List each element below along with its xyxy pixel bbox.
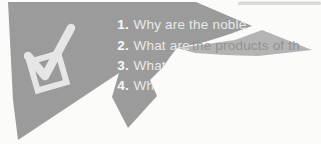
question-item-4: 4. Wha (117, 78, 162, 93)
question-1-text: Why are the noble g (134, 17, 259, 32)
question-4-text: Wha (134, 78, 163, 93)
question-2-number: 2. (117, 38, 129, 53)
scan-artifact-bar (238, 2, 321, 6)
question-2-torn-text: the products of th (192, 38, 300, 53)
question-3-number: 3. (117, 58, 129, 73)
question-4-number: 4. (117, 78, 129, 93)
question-2-text: What are (134, 38, 190, 53)
question-item-3: 3. What i (117, 58, 173, 73)
question-3-text: What i (134, 58, 173, 73)
scanned-checklist-graphic: 1. Why are the noble g 2. What are 3. Wh… (0, 0, 321, 144)
torn-note-svg: 1. Why are the noble g 2. What are 3. Wh… (0, 0, 321, 144)
question-1-number: 1. (117, 17, 129, 32)
question-item-1: 1. Why are the noble g (117, 17, 258, 32)
question-item-2: 2. What are (117, 38, 190, 53)
